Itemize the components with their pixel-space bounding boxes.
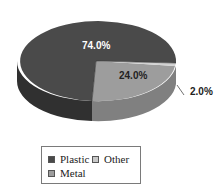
swatch-metal-icon [48,170,55,177]
label-other: 2.0% [190,86,213,97]
pie-chart: 74.0% 24.0% 2.0% [0,0,223,140]
legend-item-plastic: Plastic [48,153,89,165]
legend-label: Other [104,153,129,165]
legend-label: Plastic [60,153,89,165]
legend-label: Metal [60,167,86,179]
label-plastic: 74.0% [82,40,110,51]
swatch-plastic-icon [48,156,55,163]
label-metal: 24.0% [119,70,147,81]
legend-item-metal: Metal [48,167,86,179]
legend: Plastic Other Metal [41,146,141,184]
swatch-other-icon [92,156,99,163]
legend-item-other: Other [92,153,129,165]
